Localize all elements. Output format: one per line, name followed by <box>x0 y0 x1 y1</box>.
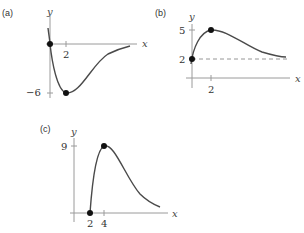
panel-b-x-tick-label: 2 <box>208 84 214 95</box>
panel-c-x-label: x <box>172 208 178 219</box>
panel-a-x-label: x <box>142 38 148 49</box>
panel-a-y-label: y <box>46 6 53 17</box>
panel-a-point-origin <box>47 41 53 47</box>
panel-b-x-label: x <box>295 73 301 84</box>
panel-c-curve <box>90 146 160 213</box>
panel-c: (c) y x 9 2 4 <box>40 124 178 229</box>
figure: (a) y x 2 −6 (b) y x 2 5 2 (c) y x <box>0 0 304 233</box>
panel-b-y-tick-label-5: 5 <box>179 25 185 36</box>
panel-a-point-min <box>63 90 69 96</box>
panel-b-y-tick-label-2: 2 <box>179 54 185 65</box>
panel-c-x-tick-label-4: 4 <box>101 218 107 229</box>
panel-c-x-tick-label-2: 2 <box>87 218 93 229</box>
panel-a-curve <box>48 28 130 93</box>
panel-a-label: (a) <box>2 8 13 18</box>
panel-b-point-max <box>208 27 214 33</box>
panel-b-label: (b) <box>155 8 166 18</box>
panel-a: (a) y x 2 −6 <box>2 6 148 98</box>
panel-c-y-tick-label: 9 <box>61 141 67 152</box>
panel-a-x-tick-label: 2 <box>63 49 69 60</box>
panel-c-point-start <box>87 210 93 216</box>
panel-c-label: (c) <box>40 124 51 134</box>
panel-b: (b) y x 2 5 2 <box>155 8 301 95</box>
panel-c-y-label: y <box>70 126 77 137</box>
panel-b-point-start <box>189 56 195 62</box>
panel-b-y-label: y <box>188 11 195 22</box>
panel-c-point-max <box>101 143 107 149</box>
panel-a-y-tick-label: −6 <box>26 87 41 98</box>
